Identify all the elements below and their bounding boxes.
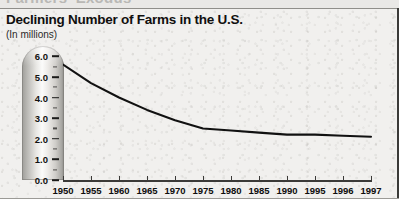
chart-figure: Farmers' Exodus Declining Number of Farm… xyxy=(0,0,399,199)
y-axis-tick-label: 1.0 xyxy=(24,154,48,165)
cutoff-headline-text: Farmers' Exodus xyxy=(6,0,132,6)
y-axis-minor-tick-mark xyxy=(53,107,57,108)
y-axis-tick-label: 3.0 xyxy=(24,113,48,124)
x-axis-tick-mark xyxy=(147,176,148,182)
x-axis-tick-label: 1950 xyxy=(52,185,73,196)
line-series-svg xyxy=(63,46,381,180)
x-axis-tick-mark xyxy=(343,176,344,182)
x-axis-tick-label: 1970 xyxy=(164,185,185,196)
x-axis-tick-label: 1980 xyxy=(220,185,241,196)
y-axis-tick-label: 5.0 xyxy=(24,71,48,82)
y-axis-minor-tick-mark xyxy=(53,66,57,67)
x-axis-tick-mark xyxy=(63,176,64,182)
x-axis-tick-mark xyxy=(231,176,232,182)
y-axis-tick-label: 6.0 xyxy=(24,51,48,62)
y-axis-tick-label: 2.0 xyxy=(24,133,48,144)
x-axis-tick-mark xyxy=(175,176,176,182)
plot-area xyxy=(63,46,381,180)
y-axis-tick-mark xyxy=(52,138,59,140)
y-axis-tick-label: 0.0 xyxy=(24,175,48,186)
chart-title: Declining Number of Farms in the U.S. xyxy=(6,12,243,27)
x-axis-tick-label: 1960 xyxy=(108,185,129,196)
y-axis-tick-mark xyxy=(52,159,59,161)
x-axis-tick-mark xyxy=(203,176,204,182)
y-axis-minor-tick-mark xyxy=(53,169,57,170)
y-axis-tick-mark xyxy=(52,97,59,99)
y-axis-tick-mark xyxy=(52,76,59,78)
y-axis-minor-tick-mark xyxy=(53,148,57,149)
x-axis-tick-mark xyxy=(259,176,260,182)
top-divider-rule xyxy=(0,8,399,9)
x-axis-tick-label: 1975 xyxy=(192,185,213,196)
x-axis-tick-label: 1955 xyxy=(80,185,101,196)
y-axis-tick-mark xyxy=(52,179,59,181)
x-axis-tick-label: 1990 xyxy=(276,185,297,196)
bottom-border-rule xyxy=(0,198,399,199)
y-axis-tick-mark xyxy=(52,56,59,58)
x-axis-tick-label: 1996 xyxy=(332,185,353,196)
x-axis-tick-mark xyxy=(287,176,288,182)
line-series-path xyxy=(63,65,371,137)
x-axis-line xyxy=(63,180,371,182)
cutoff-headline-strip: Farmers' Exodus xyxy=(0,0,399,8)
x-axis-tick-mark xyxy=(371,176,372,182)
x-axis-tick-mark xyxy=(119,176,120,182)
x-axis-tick-mark xyxy=(315,176,316,182)
y-axis-minor-tick-mark xyxy=(53,87,57,88)
y-axis-minor-tick-mark xyxy=(53,128,57,129)
x-axis-tick-label: 1965 xyxy=(136,185,157,196)
x-axis-tick-label: 1997 xyxy=(360,185,381,196)
y-axis-tick-label: 4.0 xyxy=(24,92,48,103)
chart-subtitle: (In millions) xyxy=(6,29,57,40)
x-axis-tick-mark xyxy=(91,176,92,182)
x-axis-tick-label: 1995 xyxy=(304,185,325,196)
x-axis-tick-label: 1985 xyxy=(248,185,269,196)
y-axis-tick-mark xyxy=(52,117,59,119)
